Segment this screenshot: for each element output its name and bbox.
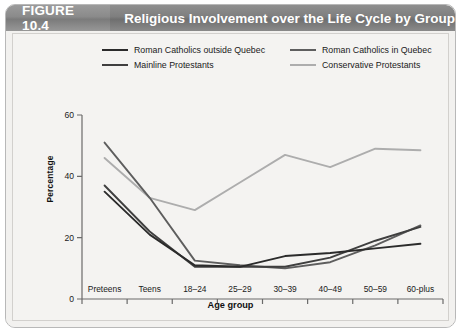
x-axis-tick-label: 60-plus [407, 284, 434, 294]
x-axis-tick-label: 25–29 [228, 284, 251, 294]
x-axis-tick-label: 40–49 [319, 284, 342, 294]
figure-header: FIGURE 10.4 Religious Involvement over t… [6, 5, 455, 31]
x-axis-tick-label: Teens [139, 284, 161, 294]
series-line [105, 192, 421, 267]
figure-number: FIGURE 10.4 [6, 5, 110, 31]
x-axis-tick-label: Preteens [88, 284, 122, 294]
y-axis-tick-label: 20 [48, 233, 74, 243]
y-axis-tick-label: 40 [48, 171, 74, 181]
figure-title: Religious Involvement over the Life Cycl… [110, 11, 455, 26]
x-axis-tick-label: 30–39 [273, 284, 296, 294]
y-axis-tick-label: 60 [48, 110, 74, 120]
x-axis-tick-label: 18–24 [183, 284, 206, 294]
figure-body: Roman Catholics outside QuebecRoman Cath… [6, 31, 455, 327]
x-axis-tick-label: 50–59 [364, 284, 387, 294]
chart-plot-area: Percentage Age group 0204060PreteensTeen… [6, 31, 455, 325]
y-axis-tick-label: 0 [48, 294, 74, 304]
figure-card: FIGURE 10.4 Religious Involvement over t… [5, 4, 456, 328]
